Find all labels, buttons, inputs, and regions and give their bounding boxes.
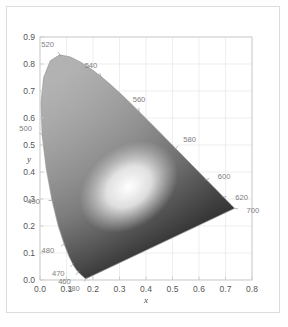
chromaticity-svg: 0.00.10.20.30.40.50.60.70.8 0.00.10.20.3… bbox=[0, 0, 288, 327]
x-tick-label: 0.3 bbox=[114, 284, 126, 294]
wavelength-label: 460 bbox=[58, 277, 71, 286]
y-tick-label: 0.4 bbox=[23, 167, 35, 177]
y-tick-label: 0.0 bbox=[23, 275, 35, 285]
figure-container: 0.00.10.20.30.40.50.60.70.8 0.00.10.20.3… bbox=[0, 0, 288, 327]
x-axis-label: x bbox=[143, 295, 148, 305]
wavelength-label: 480 bbox=[42, 246, 55, 255]
x-tick-label: 0.5 bbox=[167, 284, 179, 294]
x-tick-label: 0.0 bbox=[34, 284, 46, 294]
y-tick-label: 0.9 bbox=[23, 32, 35, 42]
chromaticity-diagram: 0.00.10.20.30.40.50.60.70.8 0.00.10.20.3… bbox=[0, 0, 288, 327]
y-tick-label: 0.8 bbox=[23, 59, 35, 69]
x-tick-label: 0.6 bbox=[193, 284, 205, 294]
wavelength-label: 500 bbox=[19, 124, 32, 133]
wavelength-label: 540 bbox=[85, 61, 98, 70]
x-tick-label: 0.2 bbox=[87, 284, 99, 294]
y-tick-label: 0.7 bbox=[23, 86, 35, 96]
x-tick-label: 0.7 bbox=[220, 284, 232, 294]
wavelength-label: 700 bbox=[247, 206, 260, 215]
wavelength-label: 620 bbox=[235, 193, 248, 202]
y-tick-label: 0.2 bbox=[23, 221, 35, 231]
y-tick-label: 0.6 bbox=[23, 113, 35, 123]
wavelength-label: 520 bbox=[41, 40, 54, 49]
wavelength-label: 560 bbox=[133, 95, 146, 104]
wavelength-label: 580 bbox=[183, 135, 196, 144]
y-tick-label: 0.1 bbox=[23, 248, 35, 258]
y-axis-label: y bbox=[26, 154, 31, 164]
x-tick-label: 0.4 bbox=[140, 284, 152, 294]
x-tick-label: 0.8 bbox=[246, 284, 258, 294]
wavelength-label: 470 bbox=[52, 269, 65, 278]
y-tick-label: 0.5 bbox=[23, 140, 35, 150]
wavelength-label: 490 bbox=[27, 197, 40, 206]
wavelength-label: 600 bbox=[218, 172, 231, 181]
